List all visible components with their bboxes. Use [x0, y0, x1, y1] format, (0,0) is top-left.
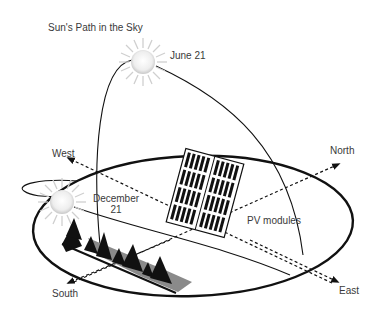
sun-icon — [38, 178, 86, 226]
east-label: East — [339, 286, 359, 296]
sun-icon — [119, 38, 167, 86]
june-label: June 21 — [170, 51, 206, 61]
pv-modules-label: PV modules — [247, 216, 301, 226]
solar-panel-icon — [166, 149, 244, 238]
december-label: December 21 — [90, 194, 142, 215]
south-label: South — [52, 289, 78, 299]
december-label-line2: 21 — [90, 205, 142, 215]
december-label-line1: December — [90, 194, 142, 204]
west-label: West — [52, 149, 75, 159]
diagram-title: Sun's Path in the Sky — [48, 23, 143, 33]
north-label: North — [330, 146, 354, 156]
